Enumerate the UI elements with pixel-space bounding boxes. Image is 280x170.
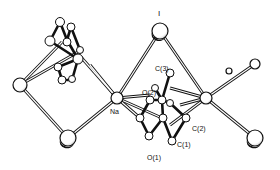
label-c1: C(1) (177, 141, 191, 148)
label-c2: C(2) (192, 125, 206, 132)
central-ligand-cluster (140, 73, 186, 141)
molecular-structure-figure: I Na C(3) O(2) C(2) C(1) O(1) (0, 0, 280, 170)
label-o2: O(2) (142, 89, 156, 96)
metal-iodide-bonds (20, 31, 255, 138)
label-sodium: Na (110, 108, 119, 115)
label-iodine: I (158, 10, 160, 18)
label-o1: O(1) (147, 154, 161, 161)
structure-drawing (0, 0, 280, 170)
label-c3: C(3) (155, 65, 169, 72)
